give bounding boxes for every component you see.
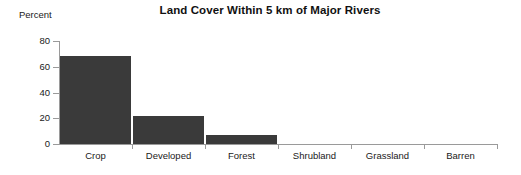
x-tick-2 <box>205 144 206 149</box>
y-tick-label-40: 40 <box>28 88 50 98</box>
y-tick-label-60: 60 <box>28 62 50 72</box>
x-tick-4 <box>351 144 352 149</box>
bar-developed <box>133 116 204 144</box>
chart-title: Land Cover Within 5 km of Major Rivers <box>120 4 420 16</box>
plot-area <box>59 41 497 144</box>
y-tick-label-20: 20 <box>28 113 50 123</box>
x-tick-label-forest: Forest <box>205 150 278 161</box>
y-axis-title: Percent <box>19 9 52 20</box>
x-tick-6 <box>497 144 498 149</box>
x-tick-1 <box>132 144 133 149</box>
x-tick-label-shrubland: Shrubland <box>278 150 351 161</box>
y-tick-label-0: 0 <box>28 139 50 149</box>
bar-crop <box>60 56 131 144</box>
x-tick-label-grassland: Grassland <box>351 150 424 161</box>
x-tick-label-barren: Barren <box>424 150 497 161</box>
x-tick-label-developed: Developed <box>132 150 205 161</box>
x-tick-5 <box>424 144 425 149</box>
bar-chart: Land Cover Within 5 km of Major Rivers P… <box>0 0 521 175</box>
x-tick-3 <box>278 144 279 149</box>
y-tick-0 <box>53 144 59 145</box>
y-tick-label-80: 80 <box>28 36 50 46</box>
bar-forest <box>206 135 277 144</box>
x-tick-label-crop: Crop <box>59 150 132 161</box>
